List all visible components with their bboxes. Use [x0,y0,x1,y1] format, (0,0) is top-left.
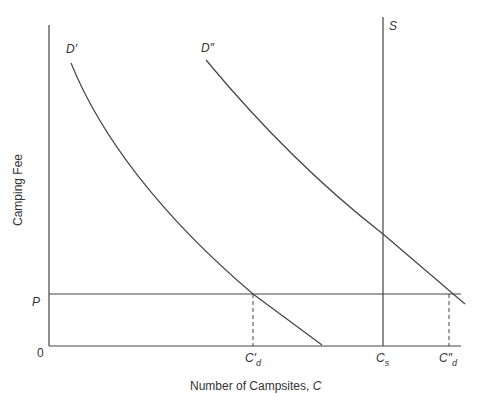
origin-label: 0 [37,346,44,360]
chart: D′ D″ S P 0 C′d Cs C″d Number of Campsit… [0,0,483,406]
y-axis-title: Camping Fee [11,154,25,226]
tick-cs: Cs [376,351,390,368]
label-d-double-prime: D″ [201,41,215,55]
x-axis-title: Number of Campsites, C [190,379,322,393]
tick-cd-double-prime: C″d [439,351,458,368]
demand-curve-d-prime [71,63,322,345]
demand-curve-d-double-prime [206,60,465,304]
label-d-prime: D′ [66,42,78,56]
label-s: S [389,19,397,33]
tick-cd-prime: C′d [245,351,262,368]
label-p: P [32,295,40,309]
